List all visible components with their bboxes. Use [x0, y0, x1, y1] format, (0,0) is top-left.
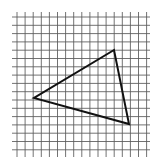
grid-lines [12, 12, 150, 157]
grid-diagram [0, 0, 158, 163]
